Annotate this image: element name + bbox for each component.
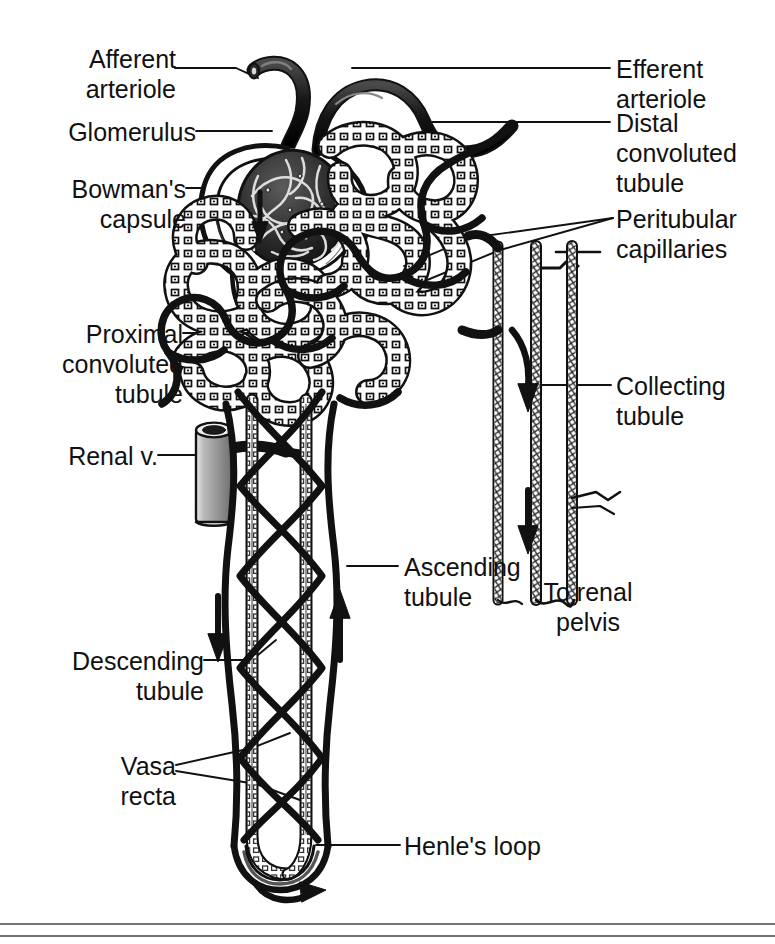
label-proximal-convoluted-tubule: Proximal convoluted tubule xyxy=(0,319,183,409)
distal-to-collecting-segment xyxy=(462,235,522,605)
label-peritubular-capillaries: Peritubular capillaries xyxy=(616,204,775,264)
label-efferent-arteriole: Efferent arteriole xyxy=(616,54,775,114)
footer-rules xyxy=(0,924,775,936)
label-renal-vein: Renal v. xyxy=(0,441,158,471)
label-descending-tubule: Descending tubule xyxy=(0,646,204,706)
label-henles-loop: Henle's loop xyxy=(404,831,604,861)
label-bowmans-capsule: Bowman's capsule xyxy=(0,174,186,234)
vasa-recta xyxy=(225,392,337,890)
nephron-diagram: Afferent arteriole Glomerulus Bowman's c… xyxy=(0,0,775,944)
label-glomerulus: Glomerulus xyxy=(0,117,196,147)
label-to-renal-pelvis: To renal pelvis xyxy=(522,577,654,637)
label-afferent-arteriole: Afferent arteriole xyxy=(0,44,176,104)
afferent-arteriole xyxy=(249,62,304,146)
label-distal-convoluted-tubule: Distal convoluted tubule xyxy=(616,108,775,198)
label-collecting-tubule: Collecting tubule xyxy=(616,371,775,431)
label-vasa-recta: Vasa recta xyxy=(0,751,176,811)
